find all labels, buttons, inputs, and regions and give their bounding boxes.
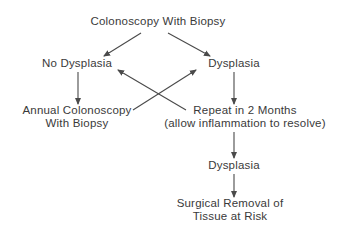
node-label-line-1: Annual Colonoscopy (22, 104, 131, 117)
arrow-start-to-no-dysplasia (104, 33, 141, 56)
node-label-line-2: Tissue at Risk (177, 210, 284, 223)
node-repeat-in-2-months: Repeat in 2 Months (allow inflammation t… (164, 104, 326, 130)
node-surgical-removal: Surgical Removal of Tissue at Risk (177, 197, 284, 223)
arrow-start-to-dysplasia (168, 33, 210, 56)
node-label-line-2: With Biopsy (22, 117, 131, 130)
node-label: Colonoscopy With Biopsy (91, 15, 226, 28)
node-label: No Dysplasia (42, 57, 112, 70)
node-label-line-1: Surgical Removal of (177, 197, 284, 210)
node-label: Dysplasia (208, 57, 260, 70)
node-no-dysplasia: No Dysplasia (42, 57, 112, 70)
node-dysplasia-confirmed: Dysplasia (208, 159, 260, 172)
colonoscopy-flowchart: Colonoscopy With Biopsy No Dysplasia Dys… (0, 0, 344, 231)
node-annual-colonoscopy: Annual Colonoscopy With Biopsy (22, 104, 131, 130)
node-colonoscopy-with-biopsy: Colonoscopy With Biopsy (91, 15, 226, 28)
node-dysplasia: Dysplasia (208, 57, 260, 70)
node-label: Dysplasia (208, 159, 260, 172)
node-label-line-2: (allow inflammation to resolve) (164, 117, 326, 130)
node-label-line-1: Repeat in 2 Months (164, 104, 326, 117)
